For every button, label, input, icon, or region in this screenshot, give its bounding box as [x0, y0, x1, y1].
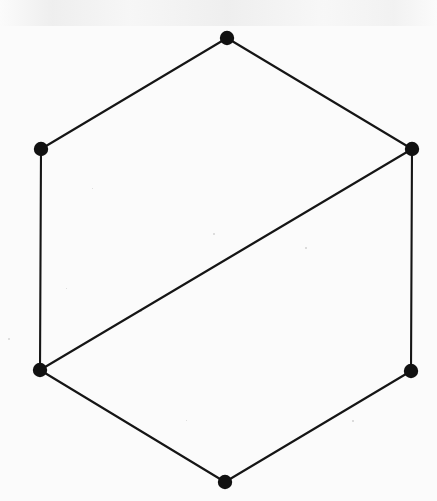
graph-edge-v2-v3 [411, 149, 412, 371]
graph-edge-v1-v2 [227, 38, 412, 149]
graph-edge-v4-v5 [40, 370, 225, 482]
graph-vertex-v3 [404, 364, 418, 378]
hexagon-graph-svg [0, 0, 437, 501]
graph-vertex-v2 [405, 142, 419, 156]
graph-vertex-v1 [220, 31, 234, 45]
graph-vertex-v4 [218, 475, 232, 489]
graph-vertex-v6 [34, 142, 48, 156]
graph-edge-v5-v2 [40, 149, 412, 370]
graph-vertex-v5 [33, 363, 47, 377]
graph-edge-v5-v6 [40, 149, 41, 370]
graph-edge-v6-v1 [41, 38, 227, 149]
figure-canvas [0, 0, 437, 501]
graph-edge-v3-v4 [225, 371, 411, 482]
edge-layer [40, 38, 412, 482]
